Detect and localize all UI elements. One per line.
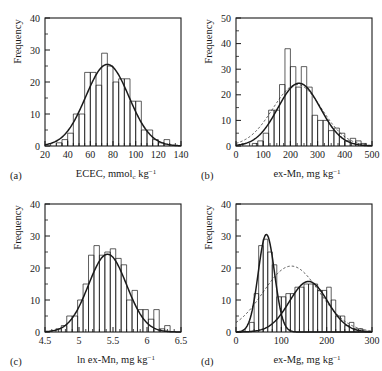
panel-b-plot: 010020030040050001020304050 <box>191 0 382 186</box>
panel-c-letter: (c) <box>10 356 22 367</box>
svg-text:0: 0 <box>226 141 231 152</box>
panel-b-xlabel-main: ex-Mn, mg kg <box>273 168 333 179</box>
panel-a: 20406080100120140010203040 Frequency ECE… <box>0 0 191 185</box>
svg-text:140: 140 <box>174 149 189 160</box>
panel-a-xlabel-sup: −1 <box>149 169 156 177</box>
svg-text:60: 60 <box>85 149 95 160</box>
svg-text:20: 20 <box>30 77 40 88</box>
svg-text:100: 100 <box>274 335 289 346</box>
panel-c-ylabel: Frequency <box>12 185 23 271</box>
svg-text:6.5: 6.5 <box>175 335 188 346</box>
panel-c-xlabel-main: ln ex-Mn, mg kg <box>77 354 148 365</box>
panel-b-xlabel: ex-Mn, mg kg−1 <box>239 168 375 181</box>
panel-a-xlabel-tail: kg <box>136 168 149 179</box>
svg-text:20: 20 <box>40 149 50 160</box>
svg-text:0: 0 <box>234 335 239 346</box>
panel-a-xlabel-main: ECEC, mmol <box>76 168 133 179</box>
svg-text:200: 200 <box>283 149 298 160</box>
svg-text:30: 30 <box>221 64 231 75</box>
svg-text:4.5: 4.5 <box>39 335 52 346</box>
svg-text:80: 80 <box>108 149 118 160</box>
panel-c-xlabel: ln ex-Mn, mg kg−1 <box>48 354 184 367</box>
panel-a-plot: 20406080100120140010203040 <box>0 0 191 186</box>
svg-text:50: 50 <box>221 13 231 24</box>
panel-c-plot: 4.555.566.5010203040 <box>0 186 191 371</box>
svg-text:500: 500 <box>365 149 380 160</box>
svg-text:40: 40 <box>221 38 231 49</box>
svg-text:300: 300 <box>365 335 380 346</box>
svg-text:20: 20 <box>30 263 40 274</box>
svg-text:10: 10 <box>221 295 231 306</box>
panel-d-xlabel-main: ex-Mg, mg kg <box>273 354 333 365</box>
panel-d-letter: (d) <box>201 356 214 367</box>
panel-c: 4.555.566.5010203040 Frequency ln ex-Mn,… <box>0 186 191 371</box>
panel-a-ylabel: Frequency <box>12 0 23 85</box>
svg-text:120: 120 <box>151 149 166 160</box>
svg-text:10: 10 <box>30 109 40 120</box>
svg-text:10: 10 <box>30 295 40 306</box>
svg-text:0: 0 <box>35 327 40 338</box>
svg-text:30: 30 <box>30 231 40 242</box>
panel-a-xlabel: ECEC, mmolc kg−1 <box>48 168 184 181</box>
svg-text:0: 0 <box>226 327 231 338</box>
panel-b-xlabel-sup: −1 <box>333 169 340 177</box>
svg-text:100: 100 <box>128 149 143 160</box>
svg-text:40: 40 <box>221 199 231 210</box>
panel-d: 0100200300010203040 Frequency ex-Mg, mg … <box>191 186 382 371</box>
svg-text:40: 40 <box>30 199 40 210</box>
panel-d-plot: 0100200300010203040 <box>191 186 382 371</box>
panel-a-letter: (a) <box>10 170 22 181</box>
svg-text:0: 0 <box>234 149 239 160</box>
svg-text:6: 6 <box>145 335 150 346</box>
panel-b-ylabel: Frequency <box>203 0 214 85</box>
svg-text:200: 200 <box>319 335 334 346</box>
svg-text:30: 30 <box>221 231 231 242</box>
svg-text:400: 400 <box>337 149 352 160</box>
svg-text:5.5: 5.5 <box>107 335 120 346</box>
panel-b-letter: (b) <box>201 170 214 181</box>
svg-text:300: 300 <box>310 149 325 160</box>
figure-four-histogram-panels: 20406080100120140010203040 Frequency ECE… <box>0 0 382 371</box>
panel-d-xlabel-sup: −1 <box>333 355 340 363</box>
panel-d-xlabel: ex-Mg, mg kg−1 <box>239 354 375 367</box>
svg-text:40: 40 <box>63 149 73 160</box>
svg-text:40: 40 <box>30 13 40 24</box>
svg-text:10: 10 <box>221 115 231 126</box>
svg-text:100: 100 <box>256 149 271 160</box>
panel-c-xlabel-sup: −1 <box>148 355 155 363</box>
svg-text:30: 30 <box>30 45 40 56</box>
svg-text:5: 5 <box>77 335 82 346</box>
svg-text:20: 20 <box>221 89 231 100</box>
panel-d-ylabel: Frequency <box>203 185 214 271</box>
panel-b: 010020030040050001020304050 Frequency ex… <box>191 0 382 185</box>
svg-text:0: 0 <box>35 141 40 152</box>
svg-text:20: 20 <box>221 263 231 274</box>
